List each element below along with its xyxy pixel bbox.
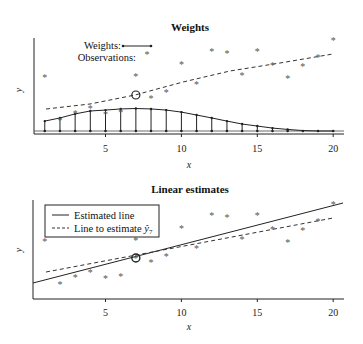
observation-point: * (73, 108, 78, 119)
weight-dot (226, 130, 229, 133)
legend-estimated-label: Estimated line (74, 210, 135, 221)
weight-dot (271, 130, 274, 133)
observation-point: * (118, 107, 123, 118)
observation-point: * (103, 109, 108, 120)
observation-point: * (103, 273, 108, 284)
legend-observations-label: Observations: (78, 52, 136, 63)
observation-point: * (255, 46, 260, 57)
observation-point: * (300, 225, 305, 236)
chart-title: Weights (171, 21, 210, 33)
observation-point: * (57, 279, 62, 290)
weights-panel: Weights 5101520 x y ********************… (13, 21, 344, 170)
observation-point: * (240, 70, 245, 81)
figure: Weights 5101520 x y ********************… (0, 0, 363, 344)
weight-dot (180, 130, 183, 133)
observation-point: * (270, 224, 275, 235)
weight-dot (135, 130, 138, 133)
observation-point: * (149, 93, 154, 104)
legend-dot-icon (122, 45, 125, 48)
weight-dot (59, 130, 62, 133)
observation-point: * (331, 199, 336, 210)
observation-point: * (149, 257, 154, 268)
x-axis-label: x (186, 159, 192, 170)
weight-dot (165, 130, 168, 133)
observation-point: * (224, 212, 229, 223)
observation-point: * (88, 267, 93, 278)
observation-point: * (145, 49, 150, 60)
x-tick-label: 5 (103, 143, 108, 154)
observation-point: * (42, 72, 47, 83)
y-axis-label: y (13, 87, 24, 93)
weight-dot (210, 130, 213, 133)
observation-point: * (73, 272, 78, 283)
observation-point: * (179, 59, 184, 70)
x-axis-label: x (186, 321, 192, 332)
observation-point: * (209, 210, 214, 221)
observation-point: * (285, 73, 290, 84)
weight-dot (74, 130, 77, 133)
x-ticks: 5101520 (103, 134, 338, 154)
legend-dot-icon (150, 45, 153, 48)
weight-dot (89, 130, 92, 133)
x-tick-label: 10 (176, 143, 186, 154)
x-tick-label: 5 (103, 307, 108, 318)
weight-dot (104, 130, 107, 133)
x-tick-label: 15 (252, 143, 262, 154)
observation-point: * (331, 35, 336, 46)
observation-point: * (316, 52, 321, 63)
x-tick-label: 15 (252, 307, 262, 318)
legend: Weights: Observations: (78, 40, 153, 63)
observation-point: * (88, 103, 93, 114)
observation-point: * (285, 237, 290, 248)
observation-point: * (118, 271, 123, 282)
x-tick-label: 20 (328, 307, 338, 318)
chart-title: Linear estimates (151, 183, 229, 195)
weight-dot (43, 130, 46, 133)
x-tick-label: 10 (176, 307, 186, 318)
observation-point: * (133, 71, 138, 82)
observation-point: * (164, 251, 169, 262)
observation-point: * (164, 87, 169, 98)
weight-dot (241, 130, 244, 133)
observation-point: * (179, 223, 184, 234)
x-ticks: 5101520 (103, 299, 338, 318)
observation-point: * (224, 48, 229, 59)
legend: Estimated line Line to estimate ŷ7 (45, 205, 159, 237)
weight-dot (150, 130, 153, 133)
linear-estimates-panel: Linear estimates 5101520 x y ***********… (13, 183, 344, 332)
observation-point: * (270, 60, 275, 71)
y-axis-label: y (13, 247, 24, 253)
weight-dot (195, 130, 198, 133)
observation-point: * (240, 234, 245, 245)
weight-dot (256, 130, 259, 133)
observation-point: * (194, 79, 199, 90)
observation-point: * (300, 61, 305, 72)
observation-point: * (57, 115, 62, 126)
observation-point: * (209, 46, 214, 57)
observation-point: * (194, 243, 199, 254)
observation-point: * (255, 210, 260, 221)
x-tick-label: 20 (328, 143, 338, 154)
weight-dot (119, 130, 122, 133)
observation-point: * (316, 216, 321, 227)
legend-weights-label: Weights: (84, 40, 121, 51)
